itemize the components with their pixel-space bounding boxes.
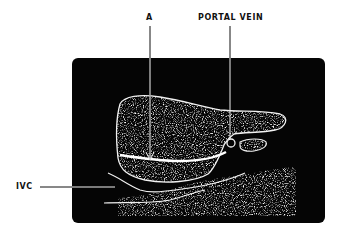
portal-vein-circle xyxy=(227,139,235,147)
ultrasound-diagram xyxy=(0,0,338,236)
